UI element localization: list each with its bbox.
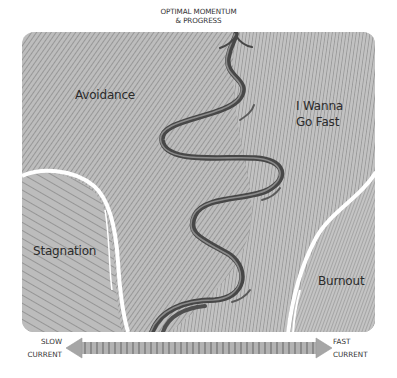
label-i-wanna-go-fast-line-2: Go Fast xyxy=(296,114,343,130)
river-diagram xyxy=(0,0,397,378)
main-panel xyxy=(22,32,376,334)
fast-current-label: FAST CURRENT xyxy=(333,335,368,361)
label-avoidance: Avoidance xyxy=(75,88,135,102)
current-arrow xyxy=(66,338,332,358)
fast-current-line-1: FAST xyxy=(333,335,368,348)
slow-current-label: SLOW CURRENT xyxy=(24,335,62,361)
arrow-right-head-icon xyxy=(316,338,332,358)
slow-current-line-2: CURRENT xyxy=(24,348,62,361)
slow-current-line-1: SLOW xyxy=(24,335,62,348)
label-stagnation: Stagnation xyxy=(33,244,96,258)
fast-current-line-2: CURRENT xyxy=(333,348,368,361)
label-i-wanna-go-fast-line-1: I Wanna xyxy=(296,98,343,114)
label-burnout: Burnout xyxy=(318,274,364,288)
arrow-left-head-icon xyxy=(66,338,82,358)
label-i-wanna-go-fast: I Wanna Go Fast xyxy=(296,98,343,130)
